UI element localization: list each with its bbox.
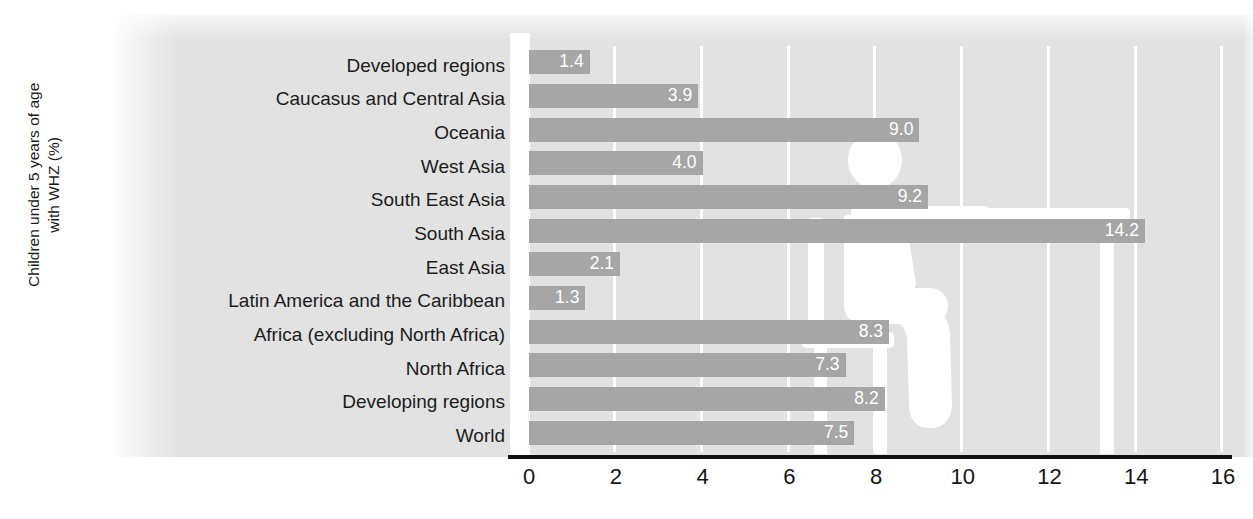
bar-value-label: 14.2	[1105, 222, 1139, 240]
bar-value-label: 9.2	[898, 188, 922, 206]
x-tick-label: 2	[610, 466, 622, 488]
bar[interactable]: 9.0	[529, 118, 919, 142]
bar[interactable]: 8.3	[529, 320, 889, 344]
x-tick-label: 4	[696, 466, 708, 488]
bar[interactable]: 4.0	[529, 151, 703, 175]
bar-value-label: 3.9	[668, 87, 692, 105]
gridline	[1220, 46, 1223, 452]
bar-value-label: 4.0	[672, 154, 696, 172]
x-tick-label: 10	[951, 466, 975, 488]
gridline	[960, 46, 963, 452]
bar[interactable]: 9.2	[529, 185, 928, 209]
category-label: Latin America and the Caribbean	[40, 291, 505, 310]
bar[interactable]: 1.3	[529, 286, 585, 310]
x-tick-label: 0	[523, 466, 535, 488]
category-label: Oceania	[40, 123, 505, 142]
category-label: West Asia	[40, 157, 505, 176]
gridline	[1047, 46, 1050, 452]
category-label: South Asia	[40, 224, 505, 243]
x-tick-label: 12	[1037, 466, 1061, 488]
category-label: Caucasus and Central Asia	[40, 89, 505, 108]
x-tick-label: 16	[1211, 466, 1235, 488]
category-label: South East Asia	[40, 190, 505, 209]
y-axis-white-band	[510, 33, 530, 458]
bar-value-label: 8.3	[859, 323, 883, 341]
x-tick-label: 8	[870, 466, 882, 488]
bar[interactable]: 7.3	[529, 353, 846, 377]
category-label: East Asia	[40, 258, 505, 277]
bar[interactable]: 3.9	[529, 84, 698, 108]
x-axis-tick-labels: 0 2 4 6 8 10 12 14 16	[529, 466, 1223, 502]
category-label-list: Developed regions Caucasus and Central A…	[40, 46, 505, 452]
x-tick-label: 14	[1124, 466, 1148, 488]
category-label: North Africa	[40, 359, 505, 378]
bar-value-label: 1.4	[559, 53, 583, 71]
bar-value-label: 7.5	[824, 424, 848, 442]
bar-value-label: 8.2	[854, 390, 878, 408]
bar[interactable]: 14.2	[529, 219, 1145, 243]
x-tick-label: 6	[783, 466, 795, 488]
chart-page: Children under 5 years of age with WHZ (…	[0, 0, 1253, 519]
bar[interactable]: 2.1	[529, 252, 620, 276]
bar-value-label: 9.0	[889, 121, 913, 139]
bar[interactable]: 1.4	[529, 50, 590, 74]
bar[interactable]: 8.2	[529, 387, 885, 411]
bar-value-label: 1.3	[555, 289, 579, 307]
category-label: Developed regions	[40, 56, 505, 75]
x-axis-line	[508, 455, 1232, 459]
category-label: World	[40, 426, 505, 445]
bar-value-label: 2.1	[590, 255, 614, 273]
category-label: Africa (excluding North Africa)	[40, 325, 505, 344]
bar[interactable]: 7.5	[529, 421, 854, 445]
category-label: Developing regions	[40, 392, 505, 411]
gridline	[1134, 46, 1137, 452]
bar-value-label: 7.3	[815, 356, 839, 374]
plot-area: 1.4 3.9 9.0 4.0 9.2 14.2	[529, 46, 1223, 452]
